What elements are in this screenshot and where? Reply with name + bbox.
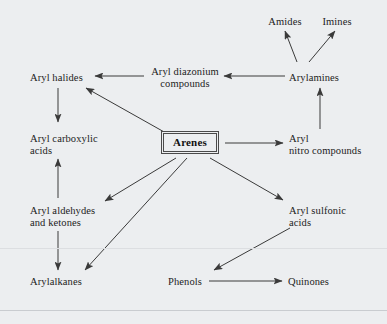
node-aryl-halides: Aryl halides bbox=[30, 72, 120, 84]
arrow-arenes-to-aldehydes bbox=[105, 158, 176, 201]
node-quinones: Quinones bbox=[288, 276, 358, 288]
node-imines: Imines bbox=[312, 16, 362, 28]
separator-rule-upper bbox=[0, 248, 387, 249]
node-arenes-label: Arenes bbox=[163, 133, 217, 152]
node-amides: Amides bbox=[260, 16, 310, 28]
node-aryl-sulfonic-acids: Aryl sulfonic acids bbox=[289, 205, 384, 228]
node-arenes-box: Arenes bbox=[161, 131, 219, 154]
diagram-canvas: Amides Imines Aryl diazonium compounds A… bbox=[0, 0, 387, 324]
node-aryl-aldehydes-and-ketones: Aryl aldehydes and ketones bbox=[30, 205, 125, 228]
arrow-arylamines-to-imines bbox=[309, 31, 335, 62]
node-arylamines: Arylamines bbox=[289, 72, 379, 84]
node-aryl-carboxylic-acids: Aryl carboxylic acids bbox=[30, 133, 125, 156]
node-phenols: Phenols bbox=[168, 276, 228, 288]
separator-rule-lower bbox=[0, 310, 387, 311]
node-aryl-diazonium-compounds: Aryl diazonium compounds bbox=[144, 66, 226, 89]
arrow-arenes-to-aryl-sulfonic bbox=[210, 158, 283, 200]
arrow-arenes-to-aryl-halides bbox=[86, 88, 166, 133]
node-arylalkanes: Arylalkanes bbox=[30, 276, 120, 288]
node-aryl-nitro-compounds: Aryl nitro compounds bbox=[289, 133, 384, 156]
arrow-aryl-sulfonic-to-phenols bbox=[214, 228, 290, 270]
arrow-arylamines-to-amides bbox=[285, 31, 297, 62]
